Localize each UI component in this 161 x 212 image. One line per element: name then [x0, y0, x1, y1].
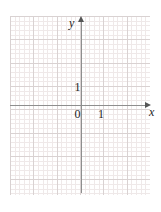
- y-axis-arrowhead-icon: [78, 16, 84, 22]
- y-axis-label: y: [69, 17, 74, 29]
- x-axis-tick-label-one: 1: [98, 108, 104, 120]
- x-axis-line: [10, 105, 148, 106]
- x-axis-label: x: [149, 106, 154, 118]
- origin-label: 0: [75, 108, 81, 120]
- y-axis-line: [81, 22, 82, 193]
- coordinate-plane-figure: y x 1 0 1: [0, 0, 161, 212]
- y-axis-tick-label-one: 1: [75, 81, 81, 93]
